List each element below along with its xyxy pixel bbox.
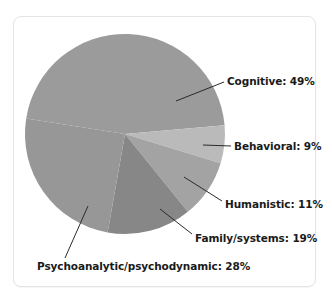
label-family-systems: Family/systems: 19% bbox=[195, 232, 317, 244]
label-cognitive: Cognitive: 49% bbox=[227, 75, 315, 87]
label-psychoanalytic: Psychoanalytic/psychodynamic: 28% bbox=[37, 260, 250, 272]
slice-psychoanalytic bbox=[25, 118, 125, 232]
slice-cognitive bbox=[26, 34, 224, 134]
label-behavioral: Behavioral: 9% bbox=[234, 140, 322, 152]
label-humanistic: Humanistic: 11% bbox=[225, 198, 323, 210]
